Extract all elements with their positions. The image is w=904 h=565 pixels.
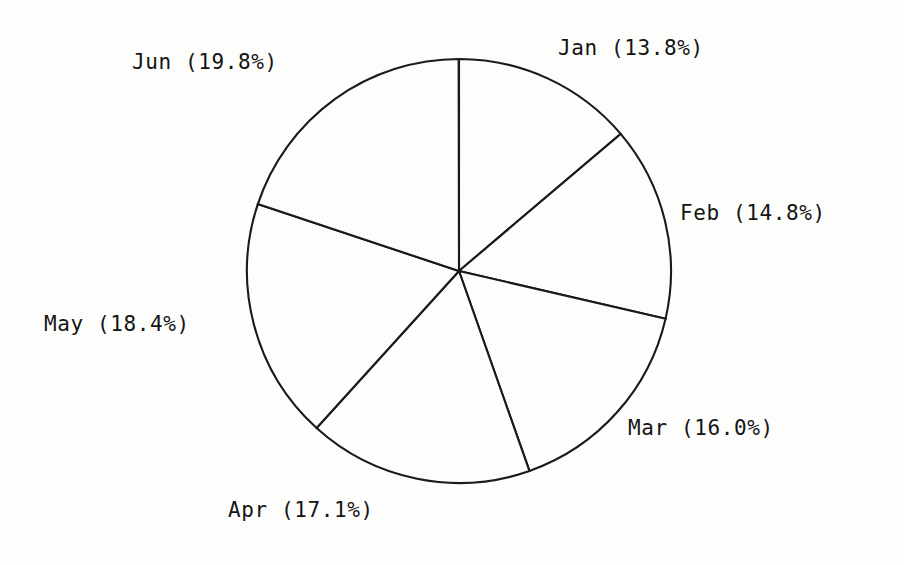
pie-label-mar: Mar (16.0%) (628, 418, 774, 439)
pie-label-feb: Feb (14.8%) (680, 203, 826, 224)
pie-label-jun: Jun (19.8%) (132, 52, 278, 73)
pie-label-apr: Apr (17.1%) (228, 500, 374, 521)
pie-chart-figure: Jan (13.8%)Feb (14.8%)Mar (16.0%)Apr (17… (0, 0, 904, 565)
pie-slice-group (247, 59, 671, 483)
pie-label-may: May (18.4%) (44, 314, 190, 335)
pie-chart-canvas (0, 0, 904, 565)
pie-label-jan: Jan (13.8%) (558, 38, 704, 59)
